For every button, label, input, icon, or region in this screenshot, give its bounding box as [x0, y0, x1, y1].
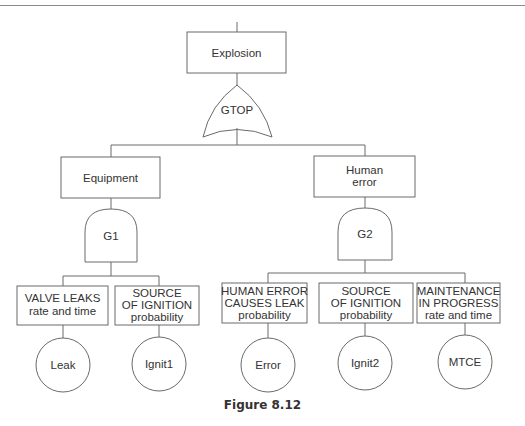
and-gate-g1[interactable]: G1 [85, 209, 137, 262]
description-line: CAUSES LEAK [225, 297, 305, 309]
human-error-causes-leak-box[interactable]: HUMAN ERROR CAUSES LEAK probability [221, 283, 308, 323]
valve-leaks-box[interactable]: VALVE LEAKS rate and time [17, 286, 108, 325]
and-gate-g2[interactable]: G2 [338, 208, 392, 260]
gate-label: GTOP [221, 104, 254, 116]
description-line: SOURCE [132, 287, 182, 299]
source-of-ignition-2-box[interactable]: SOURCE OF IGNITION probability [319, 283, 413, 323]
basic-event-label: Error [255, 359, 281, 371]
event-label: Equipment [83, 172, 139, 184]
basic-event-mtce[interactable]: MTCE [438, 335, 492, 389]
description-line: rate and time [425, 309, 492, 321]
description-line: probability [340, 309, 393, 321]
basic-event-label: Ignit2 [351, 357, 379, 369]
basic-event-ignit1[interactable]: Ignit1 [132, 337, 186, 391]
maintenance-in-progress-box[interactable]: MAINTENANCE IN PROGRESS rate and time [417, 283, 501, 323]
basic-event-leak[interactable]: Leak [36, 338, 90, 392]
top-event-label: Explosion [212, 47, 262, 59]
human-error-event-box[interactable]: Human error [314, 156, 415, 197]
description-line: VALVE LEAKS [25, 292, 101, 304]
description-line: MAINTENANCE [417, 285, 501, 297]
basic-event-label: Ignit1 [145, 358, 173, 370]
description-line: probability [131, 311, 184, 323]
description-line: SOURCE [341, 285, 391, 297]
basic-event-label: Leak [51, 359, 76, 371]
figure-caption: Figure 8.12 [0, 398, 525, 412]
description-line: rate and time [29, 305, 96, 317]
description-line: IN PROGRESS [419, 297, 499, 309]
basic-event-label: MTCE [449, 356, 482, 368]
event-label: error [352, 176, 376, 188]
fault-tree-diagram: Explosion GTOP Equipment G1 VALVE LEAKS … [0, 0, 525, 426]
description-line: probability [238, 309, 291, 321]
top-event-box[interactable]: Explosion [187, 32, 286, 73]
event-label: Human [346, 164, 383, 176]
gate-label: G1 [103, 230, 118, 242]
description-line: HUMAN ERROR [221, 285, 308, 297]
basic-event-ignit2[interactable]: Ignit2 [338, 336, 392, 390]
equipment-event-box[interactable]: Equipment [61, 157, 160, 198]
description-line: OF IGNITION [122, 299, 192, 311]
source-of-ignition-1-box[interactable]: SOURCE OF IGNITION probability [115, 286, 199, 325]
description-line: OF IGNITION [331, 297, 401, 309]
gate-label: G2 [357, 228, 372, 240]
basic-event-error[interactable]: Error [241, 338, 295, 392]
